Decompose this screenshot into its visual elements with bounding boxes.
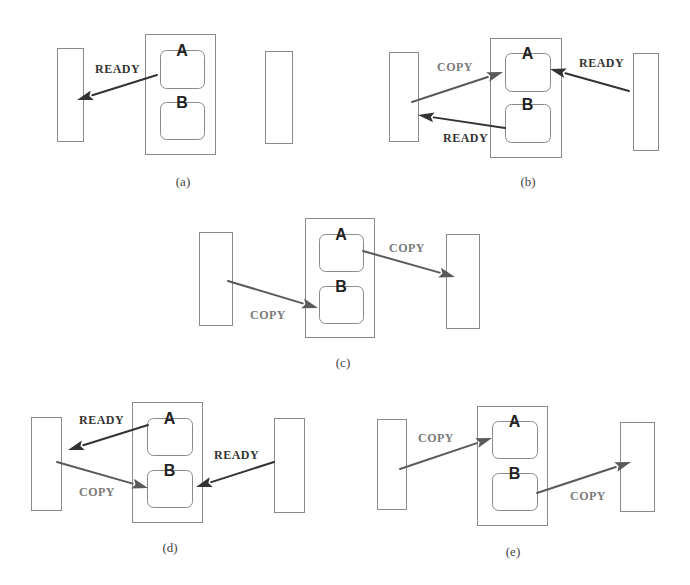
ready-label: READY — [95, 62, 140, 76]
left-device — [378, 420, 407, 510]
copy-label: COPY — [250, 308, 286, 322]
buffer-label: B — [522, 96, 534, 113]
copy-arrow: COPY — [537, 462, 631, 503]
ready-label: READY — [79, 413, 124, 427]
left-device — [32, 418, 62, 511]
panel-caption: (c) — [336, 355, 350, 370]
copy-label: COPY — [79, 485, 115, 499]
arrowhead-icon — [418, 112, 435, 122]
copy-label: COPY — [418, 431, 454, 445]
copy-arrow: COPY — [363, 241, 455, 277]
right-device — [634, 54, 659, 151]
right-device — [621, 423, 655, 512]
right-device — [447, 235, 480, 329]
panel-c: ABCOPYCOPY(c) — [200, 219, 480, 371]
buffer-label: B — [164, 462, 176, 479]
buffer-label: A — [164, 410, 176, 427]
right-device — [266, 52, 293, 144]
panel-d: ABREADYCOPYREADY(d) — [32, 403, 305, 556]
copy-label: COPY — [389, 241, 425, 255]
buffer-label: B — [509, 465, 521, 482]
buffer-label: A — [509, 413, 521, 430]
panel-caption: (d) — [162, 540, 177, 555]
left-device — [200, 233, 233, 326]
double-buffer-diagram: ABREADY(a)ABCOPYREADYREADY(b)ABCOPYCOPY(… — [0, 0, 690, 585]
ready-arrow: READY — [196, 448, 274, 487]
buffer-label: A — [522, 45, 534, 62]
buffer-label: A — [176, 42, 188, 59]
panel-caption: (e) — [506, 544, 520, 559]
left-device — [58, 49, 84, 142]
copy-label: COPY — [437, 60, 473, 74]
copy-label: COPY — [570, 489, 606, 503]
arrow-shaft — [400, 443, 477, 469]
copy-arrow: COPY — [412, 60, 503, 102]
panel-caption: (a) — [176, 174, 190, 189]
buffer-label: B — [335, 278, 347, 295]
arrow-shaft — [211, 462, 274, 482]
arrow-shaft — [57, 462, 133, 484]
buffer-label: B — [176, 94, 188, 111]
ready-label: READY — [579, 56, 624, 70]
panel-e: ABCOPYCOPY(e) — [378, 407, 655, 560]
panel-b: ABCOPYREADYREADY(b) — [390, 39, 659, 190]
arrowhead-icon — [68, 440, 85, 450]
right-device — [275, 419, 305, 513]
copy-arrow: COPY — [228, 281, 318, 322]
panel-caption: (b) — [520, 174, 535, 189]
ready-label: READY — [443, 131, 488, 145]
arrow-shaft — [228, 281, 303, 303]
arrow-shaft — [565, 73, 629, 91]
left-device — [390, 53, 419, 142]
buffer-label: A — [335, 226, 347, 243]
panel-a: ABREADY(a) — [58, 35, 293, 190]
arrow-shaft — [412, 77, 488, 102]
ready-label: READY — [214, 448, 259, 462]
